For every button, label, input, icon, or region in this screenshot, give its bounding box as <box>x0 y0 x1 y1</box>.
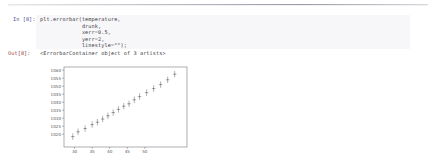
data-point <box>85 128 86 129</box>
y-tick-label: 1030 <box>51 116 62 121</box>
x-tick-label: 35 <box>90 149 96 154</box>
data-point <box>107 115 108 116</box>
data-point <box>129 103 130 104</box>
code-source[interactable]: plt.errorbar(temperature, drunk, xerr=0.… <box>40 16 127 49</box>
data-point <box>72 136 73 137</box>
x-tick-label: 40 <box>107 149 113 154</box>
data-point <box>123 106 124 107</box>
data-point <box>92 124 93 125</box>
data-point <box>153 88 154 89</box>
output-repr-text: <ErrorbarContainer object of 3 artists> <box>40 50 166 57</box>
data-point <box>97 122 98 123</box>
x-tick-label: 45 <box>125 149 131 154</box>
top-divider-shadow <box>8 5 428 6</box>
matplotlib-figure: 1020102510301035104010451050105510603035… <box>38 62 193 160</box>
output-cell: Out[8]: <ErrorbarContainer object of 3 a… <box>0 50 430 59</box>
data-point <box>146 92 147 93</box>
errorbar-scatter-plot: 1020102510301035104010451050105510603035… <box>38 62 193 160</box>
code-editor[interactable]: plt.errorbar(temperature, drunk, xerr=0.… <box>36 15 410 49</box>
data-point <box>113 112 114 113</box>
data-point <box>118 109 119 110</box>
notebook-page: In [8]: plt.errorbar(temperature, drunk,… <box>0 0 430 163</box>
x-tick-label: 50 <box>142 149 148 154</box>
out-prompt-label: Out[8]: <box>8 50 31 57</box>
data-point <box>102 119 103 120</box>
y-tick-label: 1025 <box>51 124 62 129</box>
y-tick-label: 1055 <box>51 76 62 81</box>
data-point <box>160 84 161 85</box>
input-cell[interactable]: In [8]: plt.errorbar(temperature, drunk,… <box>0 15 430 45</box>
data-point <box>139 96 140 97</box>
x-tick-label: 30 <box>72 149 78 154</box>
y-tick-label: 1060 <box>51 68 62 73</box>
data-point <box>134 99 135 100</box>
y-tick-label: 1020 <box>51 132 62 137</box>
y-tick-label: 1050 <box>51 84 62 89</box>
data-point <box>167 79 168 80</box>
plot-frame <box>64 67 187 147</box>
data-point <box>174 74 175 75</box>
y-tick-label: 1035 <box>51 108 62 113</box>
in-prompt-label: In [8]: <box>13 16 36 23</box>
y-tick-label: 1045 <box>51 92 62 97</box>
data-point <box>78 131 79 132</box>
y-tick-label: 1040 <box>51 100 62 105</box>
